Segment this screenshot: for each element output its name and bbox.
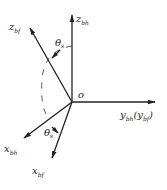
y-label: ybh(ybf) <box>119 109 153 123</box>
x-bf-label: xbf <box>32 165 45 179</box>
coordinate-diagram: o zbh zbf ybh(ybf) xbh xbf θs θs <box>0 0 167 190</box>
theta-top-label: θs <box>55 37 64 49</box>
z-bf-axis <box>30 28 72 102</box>
origin-label: o <box>78 89 84 100</box>
z-bf-label: zbf <box>8 21 22 35</box>
theta-bottom-label: θs <box>44 127 53 139</box>
x-bh-label: xbh <box>4 143 17 156</box>
z-bh-label: zbh <box>75 13 89 26</box>
